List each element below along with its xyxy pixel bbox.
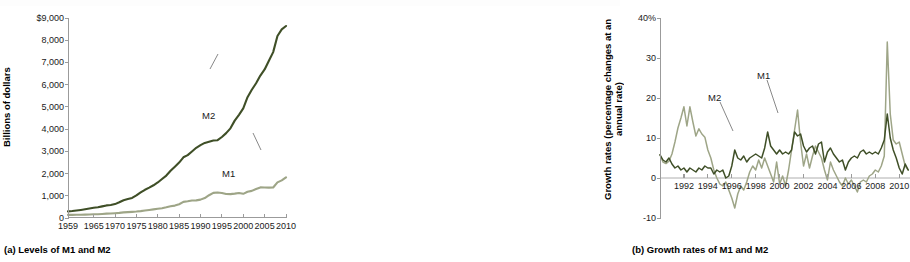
panel-a-x-tick-label: 1965 (84, 221, 104, 231)
panel-a-y-tick-mark (65, 84, 69, 85)
panel-b-x-tick-label: 1998 (746, 181, 766, 191)
panel-b-x-tick-mark (683, 174, 684, 178)
panel-b-m2-line (660, 114, 908, 178)
panel-b-y-tick-label: -10 (620, 213, 656, 223)
panel-b-y-tick-mark (657, 218, 661, 219)
panel-a-levels-chart: Billions of dollars $9,0008,0007,0006,00… (0, 0, 310, 262)
panel-a-m1-label: M1 (222, 168, 235, 179)
panel-a-y-tick-label: 5,000 (20, 102, 64, 112)
panel-a-x-tick-label: 2010 (276, 221, 296, 231)
panel-a-x-tick-label: 2000 (233, 221, 253, 231)
panel-b-y-tick-label: 20 (620, 93, 656, 103)
panel-a-y-tick-mark (65, 40, 69, 41)
panel-a-caption: (a) Levels of M1 and M2 (4, 244, 111, 255)
panel-b-x-tick-mark (755, 174, 756, 178)
panel-a-y-tick-mark (65, 106, 69, 107)
panel-a-y-axis-line (68, 18, 69, 218)
panel-a-x-axis-line (68, 217, 286, 218)
panel-b-x-tick-mark (827, 174, 828, 178)
panel-a-x-tick-mark (286, 214, 287, 218)
panel-a-y-tick-label: 8,000 (20, 35, 64, 45)
panel-a-m1-leader (253, 133, 261, 150)
panel-a-x-tick-mark (200, 214, 201, 218)
panel-b-x-tick-label: 2000 (770, 181, 790, 191)
panel-a-m2-label: M2 (202, 110, 215, 121)
panel-a-y-tick-label: 1,000 (20, 191, 64, 201)
panel-a-x-tick-mark (264, 214, 265, 218)
panel-a-x-tick-mark (68, 214, 69, 218)
panel-b-y-axis-line (660, 18, 661, 218)
panel-a-x-tick-mark (93, 214, 94, 218)
panel-a-plot-area (68, 18, 286, 218)
panel-a-x-tick-label: 1959 (58, 221, 78, 231)
panel-a-y-tick-mark (65, 18, 69, 19)
panel-a-y-tick-label: $9,000 (20, 13, 64, 23)
panel-b-y-tick-mark (657, 18, 661, 19)
panel-a-x-tick-label: 1970 (105, 221, 125, 231)
panel-a-x-tick-mark (243, 214, 244, 218)
panel-b-y-tick-mark (657, 138, 661, 139)
panel-a-y-tick-label: 2,000 (20, 169, 64, 179)
panel-a-x-tick-label: 2005 (255, 221, 275, 231)
panel-a-y-tick-label: 7,000 (20, 57, 64, 67)
panel-a-m1-line (68, 177, 286, 215)
panel-a-x-tick-label: 1990 (190, 221, 210, 231)
panel-b-y-tick-label: 30 (620, 53, 656, 63)
panel-b-y-tick-label: 40% (620, 13, 656, 23)
panel-a-series-svg (68, 18, 286, 218)
panel-a-m2-leader (210, 54, 218, 69)
panel-b-x-tick-mark (707, 174, 708, 178)
panel-b-y-tick-label: 10 (620, 133, 656, 143)
panel-b-growth-chart: Growth rates (percentage changes at an a… (300, 0, 620, 262)
panel-a-x-tick-mark (179, 214, 180, 218)
panel-a-x-tick-label: 1980 (148, 221, 168, 231)
panel-b-m1-label: M1 (757, 70, 770, 81)
panel-b-x-tick-label: 2008 (865, 181, 885, 191)
panel-b-x-tick-label: 2006 (841, 181, 861, 191)
panel-b-caption: (b) Growth rates of M1 and M2 (632, 244, 768, 255)
panel-b-x-tick-label: 2002 (794, 181, 814, 191)
panel-a-y-tick-label: 4,000 (20, 124, 64, 134)
panel-a-y-tick-mark (65, 62, 69, 63)
panel-b-m2-leader (720, 102, 733, 131)
panel-a-x-tick-mark (157, 214, 158, 218)
panel-b-x-tick-label: 1996 (722, 181, 742, 191)
panel-a-y-tick-label: 6,000 (20, 80, 64, 90)
panel-b-x-tick-mark (899, 174, 900, 178)
panel-a-x-tick-mark (221, 214, 222, 218)
panel-b-x-tick-mark (875, 174, 876, 178)
panel-b-x-tick-mark (779, 174, 780, 178)
panel-a-x-tick-label: 1985 (169, 221, 189, 231)
panel-a-x-tick-label: 1995 (212, 221, 232, 231)
panel-b-x-tick-label: 1992 (674, 181, 694, 191)
panel-b-y-tick-mark (657, 178, 661, 179)
panel-a-y-tick-mark (65, 129, 69, 130)
panel-a-y-axis-title: Billions of dollars (1, 22, 13, 192)
panel-a-m2-line (68, 26, 286, 211)
panel-a-y-tick-label: 3,000 (20, 146, 64, 156)
panel-b-x-tick-mark (851, 174, 852, 178)
panel-b-m1-leader (767, 80, 778, 113)
panel-a-x-tick-mark (136, 214, 137, 218)
panel-b-x-tick-label: 2010 (889, 181, 909, 191)
panel-b-y-tick-mark (657, 58, 661, 59)
panel-a-x-tick-mark (115, 214, 116, 218)
panel-b-x-tick-label: 2004 (817, 181, 837, 191)
panel-b-m2-label: M2 (708, 92, 721, 103)
panel-b-y-tick-mark (657, 98, 661, 99)
panel-b-y-tick-label: 0 (620, 173, 656, 183)
panel-a-y-tick-mark (65, 151, 69, 152)
panel-b-x-tick-label: 1994 (698, 181, 718, 191)
panel-b-x-tick-mark (731, 174, 732, 178)
panel-b-x-tick-mark (803, 174, 804, 178)
panel-a-y-tick-mark (65, 173, 69, 174)
panel-a-x-tick-label: 1975 (126, 221, 146, 231)
panel-a-y-tick-mark (65, 195, 69, 196)
